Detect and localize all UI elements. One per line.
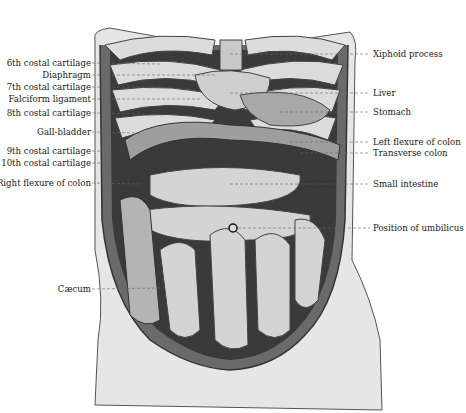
- label-6th-costal-cartilage: 6th costal cartilage: [7, 58, 91, 68]
- label-liver: Liver: [373, 88, 396, 98]
- label-position-of-umbilicus: Position of umbilicus: [373, 223, 464, 233]
- umbilicus-marker: [229, 224, 237, 232]
- label-gall-bladder: Gall-bladder: [37, 127, 91, 137]
- label-8th-costal-cartilage: 8th costal cartilage: [7, 108, 91, 118]
- label-diaphragm: Diaphragm: [42, 70, 91, 80]
- label-small-intestine: Small intestine: [373, 179, 438, 189]
- label-7th-costal-cartilage: 7th costal cartilage: [7, 82, 91, 92]
- label-caecum: Cæcum: [58, 284, 91, 294]
- label-transverse-colon: Transverse colon: [373, 148, 448, 158]
- label-10th-costal-cartilage: 10th costal cartilage: [1, 158, 91, 168]
- label-9th-costal-cartilage: 9th costal cartilage: [7, 146, 91, 156]
- label-xiphoid-process: Xiphoid process: [373, 49, 443, 59]
- xiphoid-process: [220, 40, 242, 70]
- label-falciform-ligament: Falciform ligament: [8, 94, 91, 104]
- label-left-flexure-of-colon: Left flexure of colon: [373, 137, 461, 147]
- label-right-flexure-of-colon: Right flexure of colon: [0, 178, 91, 188]
- label-stomach: Stomach: [373, 107, 411, 117]
